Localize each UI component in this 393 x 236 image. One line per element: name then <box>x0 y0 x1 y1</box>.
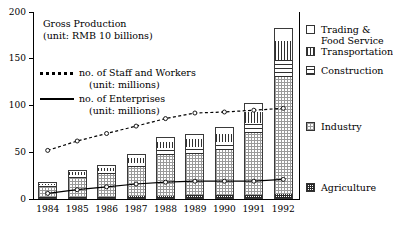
legend-item-agriculture[interactable]: Agriculture <box>306 182 376 193</box>
annotation-enterprises: no. of Enterprises (unit: millions) <box>79 93 165 117</box>
line-marker <box>193 111 197 115</box>
annotation-staff-workers: no. of Staff and Workers (unit: millions… <box>79 67 196 91</box>
x-tick-label-1992: 1992 <box>266 204 300 214</box>
y-tick-label-50: 50 <box>0 147 26 157</box>
legend-divider <box>299 12 300 200</box>
line-marker <box>105 185 109 189</box>
annotation-staff-unit: (unit: millions) <box>79 79 196 91</box>
line-marker <box>164 117 168 121</box>
annotation-gross-production: Gross Production (unit: RMB 10 billions) <box>43 18 153 42</box>
line-marker <box>164 180 168 184</box>
line-marker <box>134 124 138 128</box>
line-marker <box>252 179 256 183</box>
legend-label-trading-line1: Trading & <box>321 24 384 35</box>
y-tick-mark-0 <box>29 199 33 200</box>
annotation-gross-production-line1: Gross Production <box>43 18 153 30</box>
line-marker <box>134 182 138 186</box>
line-marker <box>222 179 226 183</box>
legend-swatch-trading-icon <box>306 25 315 34</box>
annotation-staff-label: no. of Staff and Workers <box>79 67 196 79</box>
line-marker <box>75 139 79 143</box>
legend-swatch-agriculture-icon <box>306 183 315 192</box>
legend-swatch-construction-icon <box>306 66 315 75</box>
legend-label-agriculture: Agriculture <box>321 182 376 193</box>
legend-label-trading-line2: Food Service <box>321 35 384 46</box>
legend-swatch-industry-icon <box>306 122 315 131</box>
y-tick-label-150: 150 <box>0 53 26 63</box>
legend-item-industry[interactable]: Industry <box>306 121 362 132</box>
legend-label-transportation: Transportation <box>321 46 393 57</box>
line-marker <box>193 179 197 183</box>
y-tick-label-100: 100 <box>0 100 26 110</box>
legend-label-trading: Trading & Food Service <box>321 24 384 46</box>
legend-item-transportation[interactable]: Transportation <box>306 46 393 57</box>
x-axis-line <box>33 199 299 200</box>
annotation-enterprises-unit: (unit: millions) <box>79 105 165 117</box>
line-marker <box>281 106 285 110</box>
legend-item-construction[interactable]: Construction <box>306 65 383 76</box>
line-marker <box>46 148 50 152</box>
enterprises-line-key-icon <box>40 98 74 100</box>
legend-swatch-transportation-icon <box>306 47 315 56</box>
legend-item-trading-food-service[interactable]: Trading & Food Service <box>306 24 384 46</box>
legend-label-industry: Industry <box>321 121 362 132</box>
annotation-gross-production-line2: (unit: RMB 10 billions) <box>43 30 153 42</box>
annotation-enterprises-label: no. of Enterprises <box>79 93 165 105</box>
line-marker <box>46 191 50 195</box>
line-marker <box>105 132 109 136</box>
line-marker <box>252 108 256 112</box>
y-tick-label-200: 200 <box>0 7 26 17</box>
line-marker <box>75 188 79 192</box>
line-marker <box>281 177 285 181</box>
staff-line-key-icon <box>40 72 74 75</box>
y-tick-label-0: 0 <box>0 194 26 204</box>
legend-label-construction: Construction <box>321 65 383 76</box>
line-marker <box>222 110 226 114</box>
